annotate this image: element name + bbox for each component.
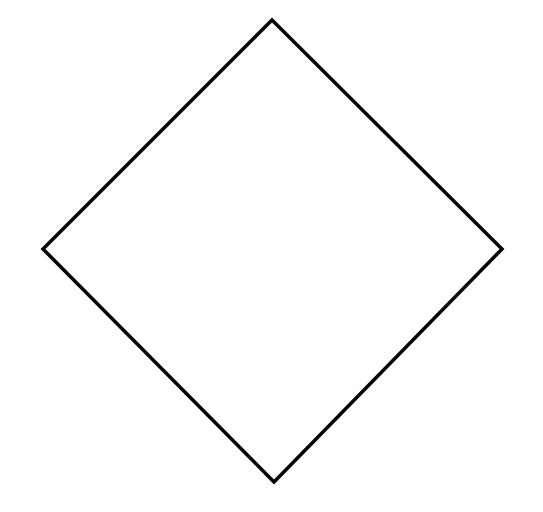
diagram-svg <box>0 0 543 512</box>
diagram-canvas <box>0 0 543 512</box>
diamond-shape <box>43 20 502 482</box>
